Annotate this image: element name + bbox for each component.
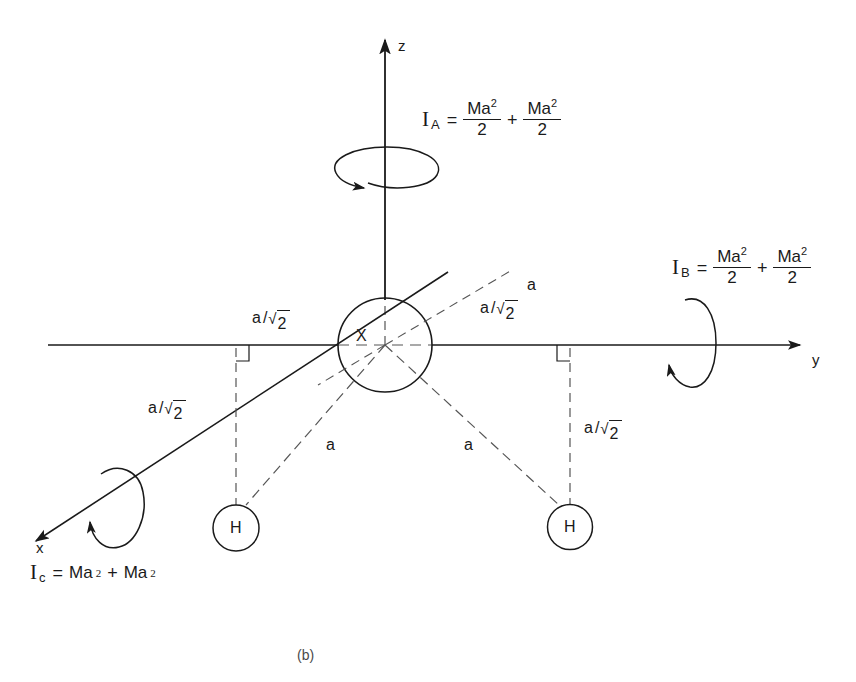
ia-subscript: A bbox=[431, 118, 440, 131]
distance-top-left-radicand: 2 bbox=[278, 315, 287, 332]
ia-term1-denominator: 2 bbox=[473, 120, 490, 139]
distance-top-right: a / √ 2 bbox=[480, 300, 518, 318]
ia-term2-fraction: Ma2 2 bbox=[523, 100, 561, 139]
left-right-angle-marker bbox=[236, 345, 249, 361]
ib-equals: = bbox=[694, 259, 711, 277]
right-hydrogen-label: H bbox=[564, 519, 576, 535]
figure-canvas: z y x X H H a / √ 2 a / √ 2 a / bbox=[0, 0, 856, 682]
ia-term2-exponent: 2 bbox=[551, 97, 557, 109]
ia-operator: + bbox=[504, 111, 521, 129]
distance-top-right-radicand: 2 bbox=[506, 305, 515, 322]
bond-length-right-label: a bbox=[464, 437, 473, 453]
y-axis-label: y bbox=[812, 352, 820, 367]
moment-ic-formula: Ic = Ma2 + Ma2 bbox=[30, 562, 156, 583]
sqrt-icon: √ bbox=[268, 311, 276, 329]
ib-term1-denominator: 2 bbox=[723, 268, 740, 287]
distance-top-right-lead: a bbox=[480, 300, 490, 316]
ia-term1-exponent: 2 bbox=[491, 97, 497, 109]
ib-operator: + bbox=[754, 259, 771, 277]
ib-symbol: I bbox=[672, 257, 679, 278]
ic-term1: Ma bbox=[69, 564, 93, 581]
ib-term2-fraction: Ma2 2 bbox=[773, 248, 811, 287]
sqrt-icon: √ bbox=[164, 401, 172, 419]
ia-term1-fraction: Ma2 2 bbox=[463, 100, 501, 139]
figure-caption: (b) bbox=[297, 648, 314, 662]
distance-mid-left: a / √ 2 bbox=[148, 400, 186, 418]
left-hydrogen-label: H bbox=[230, 520, 242, 536]
rotation-arrow-y-axis bbox=[669, 299, 716, 387]
central-atom-label: X bbox=[356, 328, 367, 344]
ib-term1-fraction: Ma2 2 bbox=[713, 248, 751, 287]
ib-subscript: B bbox=[681, 266, 690, 279]
ia-symbol: I bbox=[422, 109, 429, 130]
distance-mid-right: a / √ 2 bbox=[584, 420, 622, 438]
ic-term2: Ma bbox=[124, 564, 148, 581]
ic-subscript: c bbox=[39, 571, 46, 584]
sqrt-icon: √ bbox=[600, 421, 608, 439]
radius-upper-right-label: a bbox=[527, 277, 536, 293]
ic-symbol: I bbox=[30, 562, 37, 583]
moment-ib-formula: IB = Ma2 2 + Ma2 2 bbox=[672, 248, 811, 287]
bond-length-left-label: a bbox=[326, 437, 335, 453]
distance-mid-left-lead: a bbox=[148, 400, 158, 416]
distance-mid-right-radicand: 2 bbox=[610, 425, 619, 442]
ib-term2-numerator: Ma bbox=[777, 247, 801, 266]
distance-top-left-lead: a bbox=[252, 310, 262, 326]
ib-term2-exponent: 2 bbox=[801, 245, 807, 257]
x-axis-label: x bbox=[36, 540, 44, 555]
rotation-arrow-x-axis bbox=[90, 468, 144, 547]
ia-term2-numerator: Ma bbox=[527, 99, 551, 118]
ia-term1-numerator: Ma bbox=[467, 99, 491, 118]
moment-ia-formula: IA = Ma2 2 + Ma2 2 bbox=[422, 100, 561, 139]
ib-term1-numerator: Ma bbox=[717, 247, 741, 266]
distance-mid-left-radicand: 2 bbox=[174, 405, 183, 422]
z-axis-label: z bbox=[398, 38, 406, 53]
ia-equals: = bbox=[444, 111, 461, 129]
distance-mid-right-lead: a bbox=[584, 420, 594, 436]
right-right-angle-marker bbox=[557, 345, 570, 361]
rotation-arrow-z-axis bbox=[335, 147, 439, 188]
distance-top-left: a / √ 2 bbox=[252, 310, 290, 328]
ia-term2-denominator: 2 bbox=[534, 120, 551, 139]
ib-term2-denominator: 2 bbox=[784, 268, 801, 287]
bond-to-left-hydrogen bbox=[246, 345, 385, 505]
ic-operator: + bbox=[104, 564, 121, 582]
sqrt-icon: √ bbox=[496, 301, 504, 319]
bond-to-right-hydrogen bbox=[385, 345, 560, 506]
ib-term1-exponent: 2 bbox=[741, 245, 747, 257]
ic-equals: = bbox=[50, 564, 67, 582]
